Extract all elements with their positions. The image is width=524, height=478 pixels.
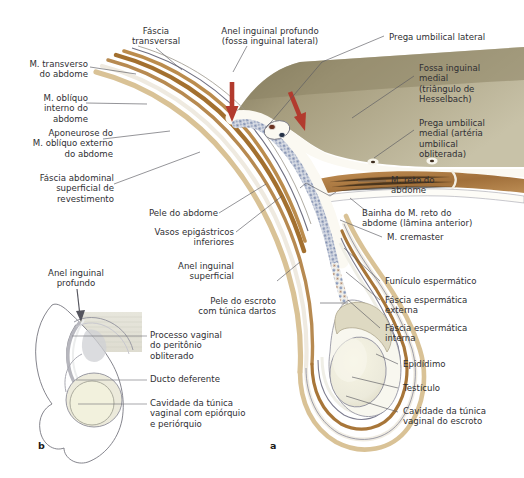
label-b-deep-inguinal-ring: Anel inguinal profundo — [33, 268, 119, 289]
label-rectus-sheath: Bainha do M. reto do abdome (lâmina ante… — [362, 208, 514, 229]
label-cremaster: M. cremaster — [387, 232, 497, 242]
label-b-ductus-deferens: Ducto deferente — [150, 374, 260, 384]
umbilical-artery-lumen-right — [430, 160, 434, 163]
label-inferior-epigastric-vessels: Vasos epigástricos inferiores — [128, 227, 234, 248]
testicular-vessels-lumen — [279, 132, 285, 137]
label-tunica-vaginalis-cavity-scrotum: Cavidade da túnica vaginal do escroto — [403, 406, 521, 427]
panel-a-letter: a — [270, 440, 276, 451]
label-skin-abdomen: Pele do abdome — [118, 208, 218, 218]
label-internal-spermatic-fascia: Fáscia espermática interna — [385, 323, 505, 344]
label-external-oblique-aponeurosis: Aponeurose do M. oblíquo externo do abdo… — [4, 128, 113, 159]
label-internal-oblique: M. oblíquo interno do abdome — [4, 93, 88, 124]
label-deep-inguinal-ring: Anel inguinal profundo (fossa inguinal l… — [197, 26, 343, 47]
label-transversus-abdominis: M. transverso do abdome — [4, 59, 88, 80]
figure-canvas: M. transverso do abdome M. oblíquo inter… — [0, 0, 524, 478]
label-b-processus-vaginalis: Processo vaginal do peritônio obliterado — [150, 330, 260, 361]
label-rectus-abdominis: M. reto do abdome — [391, 175, 491, 196]
label-medial-inguinal-fossa: Fossa inguinal medial (triângulo de Hess… — [419, 63, 523, 105]
label-testis: Testículo — [403, 383, 503, 393]
umbilical-artery-lumen-left — [371, 161, 375, 164]
label-spermatic-cord: Funículo espermático — [385, 276, 515, 286]
label-lateral-umbilical-fold: Prega umbilical lateral — [389, 32, 519, 42]
label-superficial-inguinal-ring: Anel inguinal superficial — [148, 261, 234, 282]
panel-b-letter: b — [38, 440, 45, 451]
label-superficial-investing-fascia: Fáscia abdominal superficial de revestim… — [4, 173, 114, 204]
label-epididymis: Epidídimo — [403, 359, 503, 369]
ductus-deferens-lumen — [269, 124, 276, 129]
label-scrotum-skin: Pele do escroto com túnica dartos — [168, 296, 276, 317]
label-b-tunica-cavity: Cavidade da túnica vaginal com epiórquio… — [150, 398, 268, 429]
label-medial-umbilical-fold: Prega umbilical medial (artéria umbilica… — [419, 118, 523, 160]
panel-b-illustration — [36, 289, 147, 463]
label-transversalis-fascia: Fáscia transversal — [116, 26, 196, 47]
label-external-spermatic-fascia: Fáscia espermática externa — [385, 295, 505, 316]
inset-testis — [70, 381, 114, 425]
